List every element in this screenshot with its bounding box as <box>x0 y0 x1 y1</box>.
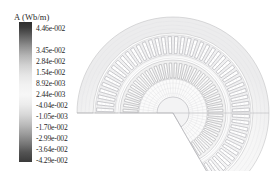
legend-title: A (Wb/m) <box>14 12 50 22</box>
figure-canvas: A (Wb/m) 4.46e-002 3.45e-002 2.84e-002 1… <box>0 0 275 171</box>
colorbar-tick-9: -2.99e-002 <box>36 134 68 143</box>
colorbar-tick-4: 8.92e-003 <box>36 79 65 88</box>
contour-plot-area <box>70 0 275 171</box>
colorbar-tick-10: -3.64e-002 <box>36 145 68 154</box>
colorbar-gradient <box>19 22 32 162</box>
colorbar-tick-8: -1.70e-002 <box>36 123 68 132</box>
colorbar-tick-1: 3.45e-002 <box>36 46 65 55</box>
machine-cross-section <box>70 0 275 171</box>
colorbar-tick-2: 2.84e-002 <box>36 57 65 66</box>
colorbar-tick-0: 4.46e-002 <box>36 24 65 33</box>
colorbar-tick-6: -4.04e-002 <box>36 101 68 110</box>
colorbar-tick-11: -4.29e-002 <box>36 156 68 165</box>
legend-panel: A (Wb/m) 4.46e-002 3.45e-002 2.84e-002 1… <box>0 0 74 171</box>
shaft <box>157 97 189 127</box>
colorbar-tick-7: -1.05e-003 <box>36 112 68 121</box>
colorbar-tick-5: 2.44e-003 <box>36 90 65 99</box>
colorbar-tick-3: 1.54e-002 <box>36 68 65 77</box>
